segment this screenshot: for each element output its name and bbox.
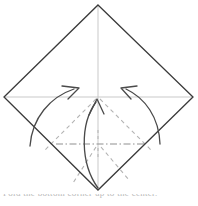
valley-fold-left-upper-line	[44, 99, 96, 151]
fold-arrow-left-shaft	[30, 89, 74, 146]
valley-fold-right-upper-line	[100, 99, 152, 151]
origami-diagram-svg	[0, 0, 198, 206]
fold-arrow-center-shaft	[84, 102, 98, 188]
origami-figure: Fold the bottom corner up to the center.	[0, 0, 198, 206]
figure-caption: Fold the bottom corner up to the center.	[3, 194, 157, 198]
caption-strip: Fold the bottom corner up to the center.	[0, 194, 198, 206]
